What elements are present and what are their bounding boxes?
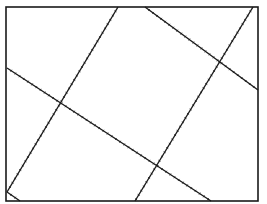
line-1 (7, 7, 118, 192)
line-4 (7, 68, 211, 201)
diagram-canvas (0, 0, 267, 204)
line-5 (7, 192, 20, 201)
line-2 (135, 7, 253, 201)
crossing-lines-diagram (0, 0, 267, 204)
lines-group (7, 7, 258, 201)
diagram-frame (6, 7, 258, 201)
